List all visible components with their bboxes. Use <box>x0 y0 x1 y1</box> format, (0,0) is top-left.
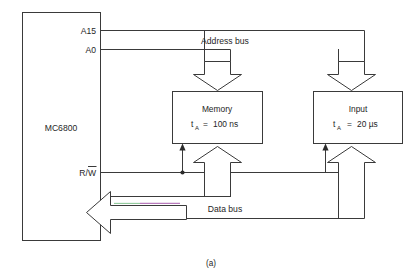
input-block-title: Input <box>349 104 368 114</box>
rw-memory-arrowhead <box>179 144 185 151</box>
input-block-box <box>314 92 403 144</box>
memory-block-box <box>173 92 263 144</box>
data-arrow-from-memory <box>194 147 242 197</box>
memory-t-equals: = <box>203 119 208 129</box>
diagram-canvas: MC6800 A15 A0 R/W Address bus Memory t A <box>0 0 418 280</box>
input-t-equals: = <box>347 119 352 129</box>
memory-t-value: 100 ns <box>213 119 238 129</box>
pin-label-rw-text: R/W <box>79 168 97 178</box>
rw-input-arrowhead <box>322 144 328 151</box>
memory-t-subscript: A <box>195 125 199 131</box>
pin-label-a0: A0 <box>85 45 96 55</box>
figure-caption: (a) <box>206 259 216 268</box>
address-arrow-to-input <box>328 62 376 91</box>
pin-label-a15: A15 <box>81 26 97 36</box>
input-t-value: 20 µs <box>357 119 378 129</box>
data-arrow-from-input <box>328 147 376 219</box>
address-bus-a0-trace <box>101 50 231 62</box>
pin-label-rw: R/W <box>79 167 97 179</box>
mc6800-label: MC6800 <box>45 123 78 133</box>
input-t-subscript: A <box>337 125 341 131</box>
figure-mc6800-bus-diagram: MC6800 A15 A0 R/W Address bus Memory t A <box>0 0 418 280</box>
data-bus-arrow-to-cpu <box>87 192 187 234</box>
memory-block-title: Memory <box>202 104 233 114</box>
rw-junction-dot <box>180 170 184 174</box>
address-arrow-to-memory <box>194 62 242 91</box>
data-bus-label: Data bus <box>208 204 242 214</box>
address-bus-label: Address bus <box>201 36 249 46</box>
